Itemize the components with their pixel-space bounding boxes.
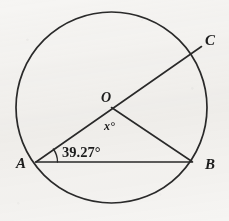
angle-arc-at-a (53, 149, 57, 162)
label-unknown-angle: x° (103, 119, 115, 133)
label-center-o: O (101, 90, 111, 105)
label-point-c: C (205, 32, 216, 48)
label-point-a: A (15, 155, 26, 171)
line-segment-ac (36, 47, 202, 163)
label-known-angle: 39.27° (62, 144, 101, 160)
label-point-b: B (204, 156, 215, 172)
line-segment-ob (112, 108, 193, 162)
geometry-canvas: A B C O x° 39.27° (0, 0, 229, 221)
geometry-figure: A B C O x° 39.27° (0, 0, 229, 221)
